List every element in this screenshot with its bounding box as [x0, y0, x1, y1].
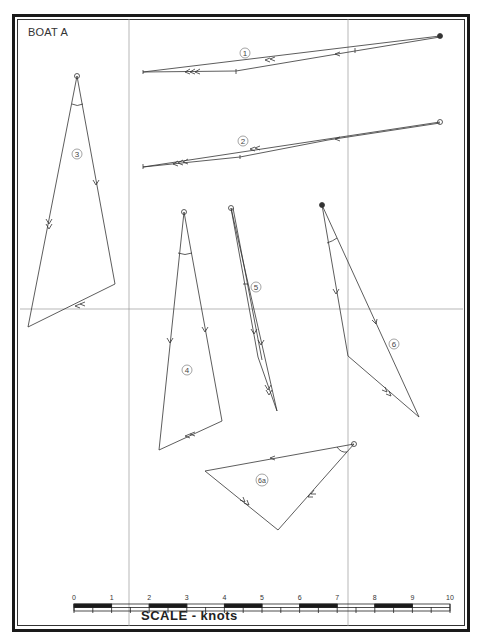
scale-tick-7: 7: [335, 594, 339, 601]
diagram-5: [229, 206, 278, 412]
diagram-4: [159, 210, 222, 451]
grid-lines: [20, 19, 463, 626]
scale-tick-5: 5: [260, 594, 264, 601]
diagram-3: [28, 74, 115, 328]
label-3-text: 3: [75, 150, 80, 159]
diagram-1: [143, 34, 443, 75]
label-4-text: 4: [185, 366, 190, 375]
diagram-6a: [205, 442, 357, 531]
scale-title: SCALE - knots: [141, 608, 238, 623]
scale-tick-4: 4: [222, 594, 226, 601]
label-5-text: 5: [254, 283, 259, 292]
label-1-text: 1: [243, 49, 248, 58]
scale-tick-2: 2: [147, 594, 151, 601]
scale-tick-10: 10: [446, 594, 454, 601]
diagram-6: [320, 203, 420, 418]
scale-tick-0: 0: [72, 594, 76, 601]
scale-bar: [74, 604, 450, 613]
scale-tick-6: 6: [298, 594, 302, 601]
label-6-text: 6: [392, 340, 397, 349]
diagram-2: [143, 120, 443, 170]
scale-tick-9: 9: [410, 594, 414, 601]
label-6a-text: 6a: [258, 477, 266, 484]
scale-tick-1: 1: [110, 594, 114, 601]
scale-tick-3: 3: [185, 594, 189, 601]
scale-tick-8: 8: [373, 594, 377, 601]
label-2-text: 2: [241, 137, 246, 146]
vector-diagram-canvas: 1 2 3 4 5 6 6a: [0, 0, 484, 642]
